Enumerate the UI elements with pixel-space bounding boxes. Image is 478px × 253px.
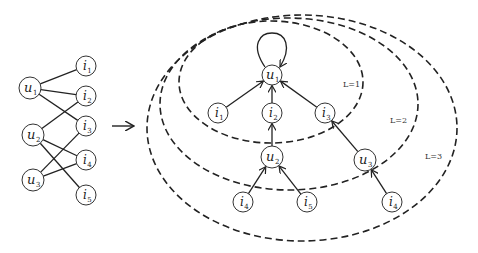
node-t_i4b: i4 <box>382 192 402 212</box>
node-t_i1: i1 <box>208 103 228 123</box>
node-t_i5: i5 <box>297 192 317 212</box>
graph-svg: L=1L=2L=3 u1u2u3i1i2i3i4i5u1i1i2i3u2u3i4… <box>0 0 478 253</box>
node-t_i2: i2 <box>262 103 282 123</box>
tree-edge-t_i3-t_u1 <box>281 81 317 107</box>
node-t_i3: i3 <box>315 103 335 123</box>
node-i3: i3 <box>76 116 96 136</box>
self-loop-edge <box>257 33 286 67</box>
edge-u1-i2 <box>41 90 76 95</box>
node-u2: u2 <box>22 124 44 146</box>
diagram-canvas: L=1L=2L=3 u1u2u3i1i2i3i4i5u1i1i2i3u2u3i4… <box>0 0 478 253</box>
bipartite-edges <box>39 70 79 188</box>
node-t_u2: u2 <box>261 146 283 168</box>
edge-u2-i2 <box>42 102 78 129</box>
node-u1: u1 <box>19 77 41 99</box>
edge-u1-i1 <box>40 70 76 84</box>
node-u3: u3 <box>22 169 44 191</box>
node-i2: i2 <box>76 86 96 106</box>
tree-edge-t_i4a-t_u2 <box>248 167 265 194</box>
node-t_u3: u3 <box>354 149 376 171</box>
node-t_i4a: i4 <box>233 192 253 212</box>
node-i5: i5 <box>76 185 96 205</box>
tree-edge-t_u3-t_i3 <box>332 121 358 152</box>
level-label: L=1 <box>343 80 360 89</box>
node-t_u1: u1 <box>262 65 282 85</box>
tree-edge-t_i1-t_u1 <box>226 81 263 107</box>
level-label: L=2 <box>390 116 407 125</box>
level-label: L=3 <box>425 152 442 161</box>
tree-edge-t_i4b-t_u3 <box>371 170 386 194</box>
node-i4: i4 <box>76 150 96 170</box>
node-i1: i1 <box>76 56 96 76</box>
